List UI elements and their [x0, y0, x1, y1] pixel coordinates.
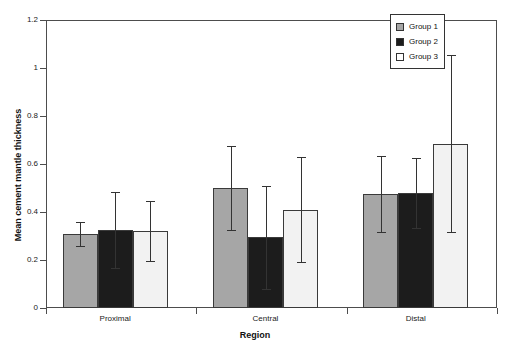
error-bar-cap-upper: [111, 192, 120, 193]
y-tick-label: 0.8: [4, 111, 38, 120]
x-axis-title: Region: [0, 330, 510, 340]
error-bar-line: [150, 201, 151, 261]
error-bar-line: [451, 55, 452, 233]
error-bar-cap-upper: [227, 146, 236, 147]
error-bar-cap-upper: [146, 201, 155, 202]
error-bar-cap-upper: [262, 186, 271, 187]
x-tick-mark: [497, 308, 498, 314]
error-bar-cap-upper: [377, 156, 386, 157]
error-bar-line: [231, 146, 232, 230]
legend-item-label: Group 1: [409, 22, 438, 31]
x-tick-mark: [347, 308, 348, 314]
error-bar-cap-lower: [76, 246, 85, 247]
bar-chart-figure: Mean cement mantle thickness 00.20.40.60…: [0, 0, 510, 355]
legend-item[interactable]: Group 2: [396, 34, 438, 49]
gray-swatch-icon: [396, 23, 404, 31]
error-bar-cap-lower: [146, 261, 155, 262]
legend-item[interactable]: Group 1: [396, 19, 438, 34]
error-bar-cap-lower: [227, 230, 236, 231]
error-bar-cap-lower: [377, 232, 386, 233]
error-bar-cap-lower: [447, 232, 456, 233]
error-bar-cap-upper: [76, 222, 85, 223]
legend-item-label: Group 3: [409, 52, 438, 61]
black-swatch-icon: [396, 38, 404, 46]
x-tick-mark: [46, 308, 47, 314]
error-bar-line: [115, 192, 116, 269]
y-tick-label: 1: [4, 63, 38, 72]
x-category-label: Central: [206, 314, 326, 323]
y-tick-label: 0.4: [4, 207, 38, 216]
y-tick-label: 0.2: [4, 255, 38, 264]
error-bar-cap-upper: [447, 55, 456, 56]
x-category-label: Proximal: [55, 314, 175, 323]
error-bar-line: [80, 222, 81, 246]
error-bar-cap-lower: [297, 262, 306, 263]
legend-item-label: Group 2: [409, 37, 438, 46]
error-bar-line: [381, 156, 382, 233]
y-tick-label: 0.6: [4, 159, 38, 168]
error-bar-line: [416, 158, 417, 228]
error-bar-cap-upper: [412, 158, 421, 159]
error-bar-cap-lower: [111, 268, 120, 269]
legend-item[interactable]: Group 3: [396, 49, 438, 64]
error-bar-line: [301, 157, 302, 263]
legend: Group 1 Group 2 Group 3: [390, 14, 445, 69]
error-bar-cap-lower: [262, 289, 271, 290]
error-bar-line: [266, 186, 267, 289]
x-tick-mark: [196, 308, 197, 314]
y-tick-label: 1.2: [4, 15, 38, 24]
error-bar-cap-lower: [412, 228, 421, 229]
error-bar-cap-upper: [297, 157, 306, 158]
y-tick-label: 0: [4, 303, 38, 312]
white-swatch-icon: [396, 53, 404, 61]
x-category-label: Distal: [356, 314, 476, 323]
